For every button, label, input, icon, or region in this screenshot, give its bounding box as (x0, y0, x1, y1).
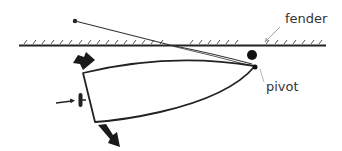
stern-down-arrow-icon (73, 52, 95, 70)
propeller-icon (79, 93, 87, 107)
fender-icon (247, 50, 257, 60)
pivot-point-icon (253, 65, 258, 70)
pivot-leader-line (260, 69, 264, 82)
diagram-canvas: fender pivot (0, 0, 342, 151)
stern-swing-arrow-icon (98, 124, 120, 147)
spring-line (73, 19, 252, 66)
dock-wall (19, 40, 326, 46)
pivot-label: pivot (266, 79, 299, 94)
fender-label: fender (285, 11, 328, 26)
thrust-arrow-icon (56, 99, 75, 104)
boat-hull (83, 60, 258, 122)
